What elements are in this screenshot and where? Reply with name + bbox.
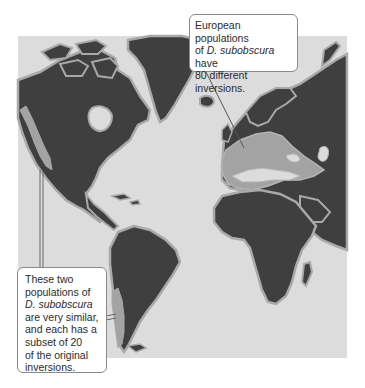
species-name: D. subobscura bbox=[25, 298, 93, 310]
callout-text: have bbox=[195, 57, 218, 69]
callout-americas-line7: of the original bbox=[25, 349, 99, 362]
callout-americas-line4: are very similar, bbox=[25, 311, 99, 324]
callout-americas-line1: These two bbox=[25, 273, 99, 286]
callout-europe: European populations of D. subobscura ha… bbox=[189, 14, 298, 72]
callout-europe-line2: of D. subobscura have bbox=[195, 44, 292, 69]
callout-europe-line3: 80 different inversions. bbox=[195, 69, 292, 94]
callout-text: of bbox=[195, 44, 207, 56]
callout-europe-line1: European populations bbox=[195, 19, 292, 44]
callout-americas-line6: subset of 20 bbox=[25, 336, 99, 349]
species-name: D. subobscura bbox=[207, 44, 275, 56]
callout-americas: These two populations of D. subobscura a… bbox=[17, 267, 107, 373]
callout-americas-line8: inversions. bbox=[25, 361, 99, 374]
callout-americas-line5: and each has a bbox=[25, 323, 99, 336]
callout-americas-line3: D. subobscura bbox=[25, 298, 99, 311]
callout-americas-line2: populations of bbox=[25, 286, 99, 299]
iceland bbox=[200, 96, 214, 107]
